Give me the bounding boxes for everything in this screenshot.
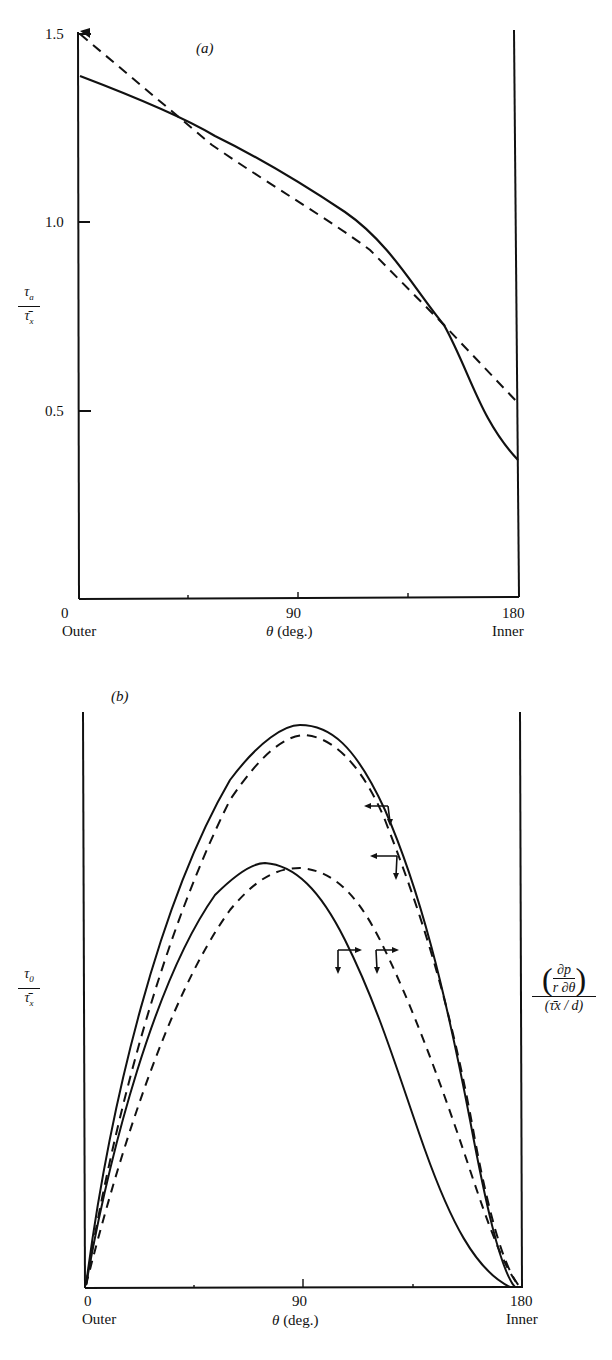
panel-a-x-sublabel-inner: Inner [492, 623, 524, 639]
unit-text: (deg.) [273, 623, 312, 639]
panel-a-x-tick-90: 90 [286, 605, 301, 621]
panel-a-y-tick-1-5: 1.5 [45, 26, 64, 42]
panel-a-y-axis [78, 32, 79, 599]
ylabel-right-mid: r ∂θ [553, 980, 576, 995]
panel-b-right-axis [520, 712, 522, 1288]
panel-b-inner-solid-curve [86, 863, 510, 1287]
panel-b-outer-dashed-curve [86, 735, 520, 1287]
panel-b-x-sublabel-outer: Outer [82, 1311, 116, 1327]
panel-b-left-y-axis-label: τ0 τ̄x [18, 966, 40, 1011]
panel-a-y-ticks [78, 34, 91, 411]
figure-canvas [0, 0, 612, 1360]
panel-a-x-tick-180: 180 [502, 605, 525, 621]
panel-a-solid-curve [80, 76, 518, 460]
panel-b-x-tick-180: 180 [510, 1293, 533, 1309]
panel-b-outer-solid-curve [86, 725, 515, 1287]
panel-b-left-axis [83, 712, 85, 1288]
panel-a-y-axis-label: τa τ̄x [18, 284, 40, 329]
panel-a-y-tick-1-0: 1.0 [45, 214, 64, 230]
ylabel-den-sub: x [30, 316, 34, 326]
close-paren: ) [575, 963, 586, 995]
panel-a-label: (a) [196, 40, 214, 56]
unit-text: (deg.) [279, 1312, 318, 1328]
open-paren: ( [542, 963, 553, 995]
panel-a-x-axis [79, 597, 519, 599]
panel-a-right-border [514, 30, 519, 597]
panel-b-x-sublabel-inner: Inner [506, 1311, 538, 1327]
panel-b-x-tick-0: 0 [84, 1293, 92, 1309]
ylabel-left-den-sub: x [30, 998, 34, 1008]
panel-b-right-y-axis-label: ( ∂p r ∂θ ) (τ̄x / d) [532, 962, 596, 1013]
panel-a-x-tick-0: 0 [61, 605, 69, 621]
ylabel-num-sub: a [29, 292, 34, 302]
panel-a-x-axis-label: θ (deg.) [266, 623, 313, 639]
panel-b-x-tick-90: 90 [292, 1293, 307, 1309]
ylabel-right-den: (τ̄x / d) [532, 998, 596, 1013]
ylabel-right-num: ∂p [553, 962, 576, 977]
panel-b-arrow-heads [80, 28, 399, 974]
ylabel-left-num-sub: 0 [29, 974, 34, 984]
panel-a-x-sublabel-outer: Outer [62, 623, 96, 639]
panel-a-y-tick-0-5: 0.5 [45, 403, 64, 419]
panel-b-x-axis-label: θ (deg.) [272, 1312, 319, 1328]
panel-b-label: (b) [111, 688, 129, 704]
panel-a-dashed-curve [80, 34, 518, 403]
